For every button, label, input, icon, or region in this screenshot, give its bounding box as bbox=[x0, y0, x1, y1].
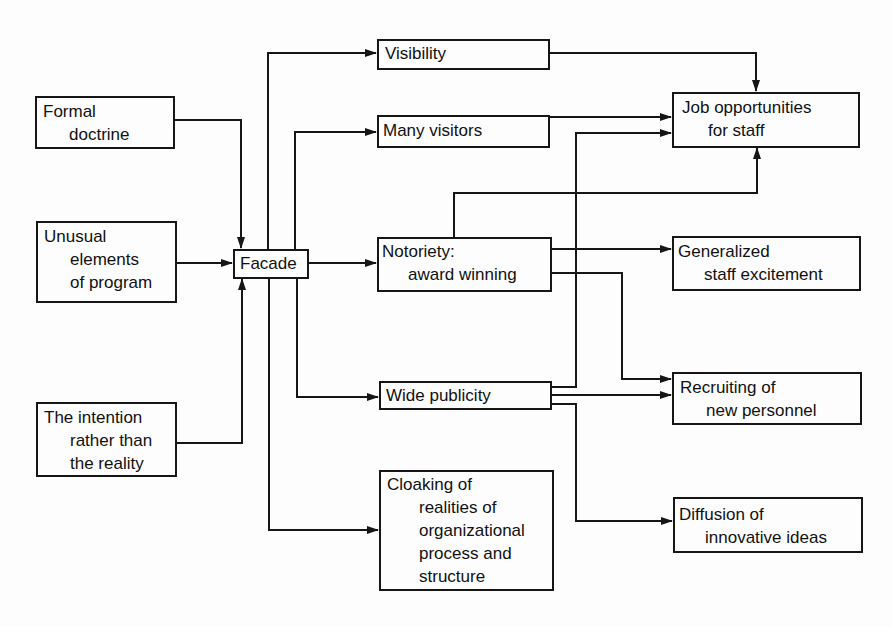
node-text: elements bbox=[44, 248, 169, 271]
node-text: of program bbox=[44, 271, 169, 294]
node-facade: Facade bbox=[233, 249, 309, 279]
node-staff-excitement: Generalized staff excitement bbox=[672, 236, 861, 291]
node-many-visitors: Many visitors bbox=[377, 115, 550, 148]
node-text: Formal bbox=[43, 100, 167, 123]
node-intention: The intention rather than the reality bbox=[36, 402, 177, 477]
node-text: Facade bbox=[240, 252, 302, 275]
node-text: Cloaking of bbox=[387, 473, 546, 496]
node-text: Many visitors bbox=[383, 119, 544, 142]
edge-publicity-to-jobs bbox=[551, 133, 671, 387]
node-recruiting: Recruiting of new personnel bbox=[672, 372, 862, 425]
node-text: doctrine bbox=[43, 123, 167, 146]
node-text: rather than bbox=[44, 429, 169, 452]
node-text: Recruiting of bbox=[680, 376, 854, 399]
edge-publicity-to-diffusion bbox=[551, 404, 672, 521]
edge-notoriety-to-recruiting bbox=[551, 273, 671, 379]
edge-facade-to-publicity bbox=[297, 278, 378, 397]
edge-visibility-to-jobs bbox=[549, 53, 756, 91]
node-text: Notoriety: bbox=[382, 240, 547, 263]
node-text: Diffusion of bbox=[679, 503, 857, 526]
node-visibility: Visibility bbox=[377, 39, 550, 70]
node-unusual-elements: Unusual elements of program bbox=[36, 221, 177, 303]
node-text: Visibility bbox=[385, 42, 542, 65]
node-diffusion: Diffusion of innovative ideas bbox=[673, 497, 863, 553]
node-text: award winning bbox=[382, 263, 547, 286]
edge-formal-to-facade bbox=[174, 120, 241, 248]
node-notoriety: Notoriety: award winning bbox=[377, 237, 552, 292]
node-text: Generalized bbox=[678, 240, 855, 263]
node-text: the reality bbox=[44, 452, 169, 475]
node-wide-publicity: Wide publicity bbox=[379, 381, 552, 410]
edge-facade-to-visitors bbox=[295, 132, 376, 249]
node-text: new personnel bbox=[680, 399, 854, 422]
node-text: The intention bbox=[44, 406, 169, 429]
edge-facade-to-cloaking bbox=[269, 278, 378, 530]
node-formal-doctrine: Formal doctrine bbox=[35, 96, 175, 149]
node-text: innovative ideas bbox=[679, 526, 857, 549]
edge-intention-to-facade bbox=[176, 279, 242, 443]
node-cloaking: Cloaking of realities of organizational … bbox=[379, 470, 554, 591]
node-text: Unusual bbox=[44, 225, 169, 248]
node-text: organizational bbox=[387, 519, 546, 542]
node-text: process and bbox=[387, 542, 546, 565]
node-text: realities of bbox=[387, 496, 546, 519]
node-job-opportunities: Job opportunities for staff bbox=[672, 92, 860, 148]
node-text: staff excitement bbox=[678, 263, 855, 286]
node-text: Job opportunities bbox=[682, 96, 850, 119]
node-text: structure bbox=[387, 565, 546, 588]
edge-notoriety-to-jobs bbox=[454, 148, 757, 237]
edge-facade-to-visibility bbox=[268, 53, 376, 249]
node-text: for staff bbox=[682, 119, 850, 142]
node-text: Wide publicity bbox=[386, 384, 545, 407]
